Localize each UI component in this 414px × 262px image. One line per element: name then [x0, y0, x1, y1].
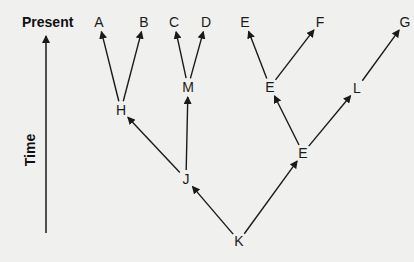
- node-d: D: [201, 14, 211, 30]
- edge-e2-e1: [249, 31, 267, 78]
- node-g: G: [400, 14, 411, 30]
- node-e1: E: [240, 14, 249, 30]
- edge-e2-f: [275, 30, 313, 80]
- node-h: H: [116, 102, 126, 118]
- edge-m-d: [190, 32, 203, 79]
- node-a: A: [94, 14, 103, 30]
- present-label: Present: [22, 14, 73, 30]
- node-m: M: [182, 79, 194, 95]
- node-c: C: [169, 14, 179, 30]
- edge-h-b: [123, 32, 141, 102]
- edge-j-h: [128, 117, 180, 172]
- phylogenetic-tree: [0, 0, 414, 262]
- node-e3: E: [298, 145, 307, 161]
- node-b: B: [139, 14, 148, 30]
- node-f: F: [316, 14, 325, 30]
- node-e2: E: [265, 79, 274, 95]
- edge-j-m: [186, 97, 188, 170]
- edge-k-j: [192, 187, 233, 235]
- node-l: L: [353, 80, 361, 96]
- edge-e3-e2: [274, 96, 299, 145]
- edge-e3-l: [309, 96, 351, 146]
- node-k: K: [234, 233, 243, 249]
- edge-h-a: [101, 32, 118, 102]
- edge-m-c: [176, 32, 186, 78]
- edge-l-g: [362, 30, 399, 81]
- edge-k-e3: [244, 161, 297, 234]
- node-j: J: [183, 171, 190, 187]
- time-axis-label: Time: [22, 134, 38, 166]
